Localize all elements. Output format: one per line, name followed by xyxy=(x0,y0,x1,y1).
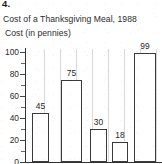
y-tick-label-60: 60 xyxy=(0,92,19,100)
bar-value-label: 99 xyxy=(128,42,162,50)
bar-value-label: 30 xyxy=(84,118,113,126)
bar xyxy=(61,80,82,163)
bar-value-label: 18 xyxy=(106,131,134,139)
y-tick-label-0: 0 xyxy=(0,158,19,164)
bar xyxy=(90,129,107,162)
y-tick-label-40: 40 xyxy=(0,114,19,122)
y-axis-label: Cost (in pennies) xyxy=(5,28,71,38)
vertical-gridline-7 xyxy=(156,49,157,162)
bar xyxy=(32,113,49,163)
y-tick-label-20: 20 xyxy=(0,136,19,144)
question-number: 4. xyxy=(2,0,10,9)
bar-value-label: 45 xyxy=(26,102,55,110)
x-axis-line xyxy=(25,162,162,163)
chart-title: Cost of a Thanksgiving Meal, 1988 xyxy=(3,14,137,24)
figure-container: 4. Cost of a Thanksgiving Meal, 1988 Cos… xyxy=(0,0,162,164)
y-tick-label-80: 80 xyxy=(0,70,19,78)
plot-area: 020406080100 4575301899 xyxy=(0,40,162,164)
bar-value-label: 75 xyxy=(55,69,88,77)
vertical-gridline-4 xyxy=(108,49,109,162)
bar xyxy=(112,142,128,162)
y-tick-label-100: 100 xyxy=(0,48,19,56)
bar xyxy=(134,53,156,162)
